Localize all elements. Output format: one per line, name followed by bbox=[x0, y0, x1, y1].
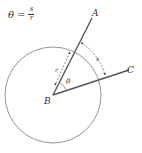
label-s: s bbox=[96, 55, 99, 62]
label-B: B bbox=[43, 96, 51, 106]
label-A: A bbox=[91, 8, 99, 18]
radian-diagram: A C B θ r s bbox=[0, 0, 142, 153]
label-theta: θ bbox=[66, 78, 71, 86]
label-C: C bbox=[127, 65, 134, 75]
label-r: r bbox=[55, 66, 59, 73]
